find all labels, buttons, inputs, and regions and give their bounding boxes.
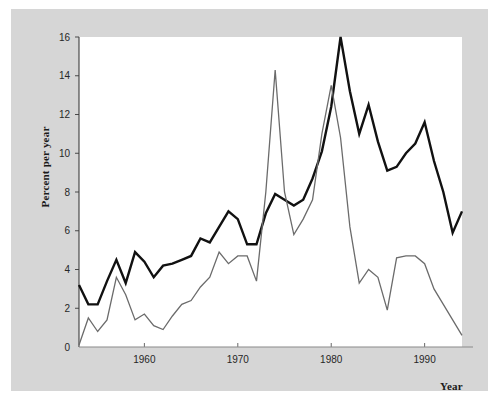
y-tick-label: 2 (64, 303, 70, 314)
y-tick-label: 8 (64, 187, 70, 198)
x-tick-label: 1990 (414, 354, 437, 365)
figure-container: Percent per year Year NOMINAL INTEREST R… (0, 0, 499, 400)
y-tick-label: 12 (59, 109, 71, 120)
y-tick-label: 16 (59, 32, 71, 43)
y-axis-ticks: 0246810121416 (59, 32, 79, 353)
x-tick-label: 1970 (227, 354, 250, 365)
y-tick-label: 14 (59, 70, 71, 81)
y-tick-label: 6 (64, 225, 70, 236)
chart-panel: Percent per year Year NOMINAL INTEREST R… (11, 9, 488, 391)
x-tick-label: 1960 (133, 354, 156, 365)
y-tick-label: 10 (59, 148, 71, 159)
x-tick-label: 1980 (320, 354, 343, 365)
plot-background (79, 37, 462, 347)
y-tick-label: 0 (64, 342, 70, 353)
line-chart-svg: 0246810121416 1960197019801990 (11, 9, 488, 391)
y-tick-label: 4 (64, 264, 70, 275)
